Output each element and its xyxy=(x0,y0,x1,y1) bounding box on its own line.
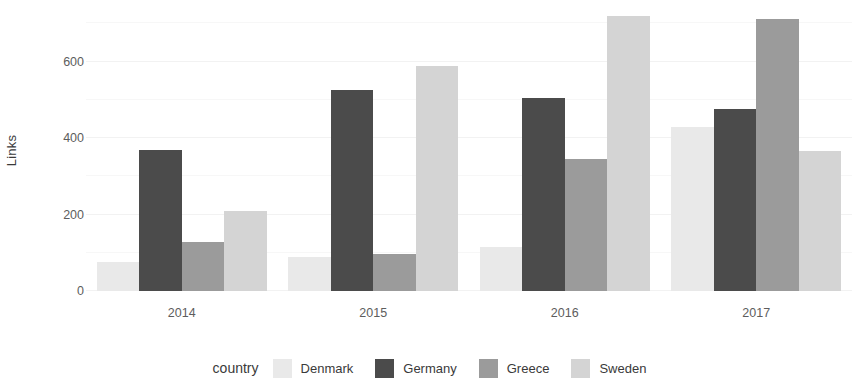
bar-germany-2015 xyxy=(331,90,374,291)
y-tick-label: 200 xyxy=(28,208,84,222)
legend: country DenmarkGermanyGreeceSweden xyxy=(0,352,859,384)
bar-denmark-2017 xyxy=(671,127,714,291)
gridline-minor xyxy=(86,22,852,23)
legend-item-sweden[interactable]: Sweden xyxy=(571,359,646,378)
x-axis-tick-labels: 2014201520162017 xyxy=(86,300,852,324)
bar-greece-2014 xyxy=(182,242,225,291)
legend-items: DenmarkGermanyGreeceSweden xyxy=(273,359,647,378)
y-tick-label: 400 xyxy=(28,131,84,145)
bar-denmark-2016 xyxy=(480,247,523,291)
bar-sweden-2015 xyxy=(416,66,459,291)
legend-title: country xyxy=(213,360,259,376)
x-tick-label-2016: 2016 xyxy=(551,306,579,320)
legend-label-denmark: Denmark xyxy=(301,361,354,376)
legend-swatch-denmark xyxy=(273,359,292,378)
bar-chart: Links 0200400600 2014201520162017 countr… xyxy=(0,0,859,386)
bar-denmark-2015 xyxy=(288,257,331,291)
x-tick-label-2017: 2017 xyxy=(742,306,770,320)
y-axis-title-label: Links xyxy=(5,134,20,165)
plot-area xyxy=(86,8,852,291)
gridline-minor xyxy=(86,99,852,100)
bar-denmark-2014 xyxy=(97,262,140,291)
bar-greece-2015 xyxy=(373,254,416,291)
bar-germany-2017 xyxy=(714,109,757,291)
legend-item-greece[interactable]: Greece xyxy=(479,359,550,378)
legend-label-greece: Greece xyxy=(507,361,550,376)
x-tick-label-2014: 2014 xyxy=(168,306,196,320)
y-axis-tick-labels: 0200400600 xyxy=(22,8,84,291)
legend-swatch-greece xyxy=(479,359,498,378)
legend-swatch-germany xyxy=(375,359,394,378)
x-tick-label-2015: 2015 xyxy=(359,306,387,320)
legend-label-germany: Germany xyxy=(403,361,456,376)
legend-swatch-sweden xyxy=(571,359,590,378)
bar-greece-2017 xyxy=(756,19,799,291)
y-tick-label: 600 xyxy=(28,55,84,69)
legend-item-denmark[interactable]: Denmark xyxy=(273,359,354,378)
y-axis-title: Links xyxy=(0,0,24,300)
bar-sweden-2016 xyxy=(607,16,650,291)
bar-germany-2014 xyxy=(139,150,182,292)
legend-label-sweden: Sweden xyxy=(599,361,646,376)
y-tick-label: 0 xyxy=(28,284,84,298)
bar-sweden-2017 xyxy=(799,151,842,291)
legend-item-germany[interactable]: Germany xyxy=(375,359,456,378)
bar-sweden-2014 xyxy=(224,211,267,291)
gridline-major xyxy=(86,61,852,62)
bar-greece-2016 xyxy=(565,159,608,291)
bar-germany-2016 xyxy=(522,98,565,291)
